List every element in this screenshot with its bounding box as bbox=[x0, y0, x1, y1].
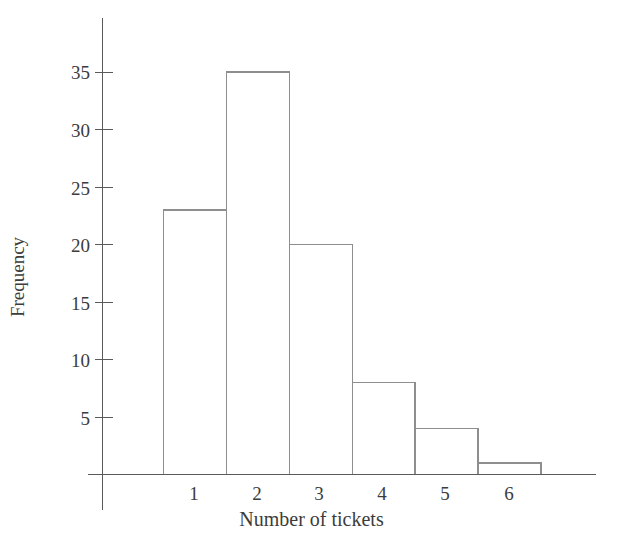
bar-category-3 bbox=[289, 245, 352, 475]
bar-category-1 bbox=[164, 210, 227, 475]
bar-category-2 bbox=[226, 72, 289, 475]
x-axis-tick-label-2: 2 bbox=[252, 484, 262, 503]
y-axis-title: Frequency bbox=[7, 237, 29, 317]
x-axis-tick-label-4: 4 bbox=[377, 484, 387, 503]
x-axis-title: Number of tickets bbox=[0, 508, 623, 531]
bar-category-5 bbox=[415, 429, 478, 475]
bar-category-6 bbox=[478, 463, 541, 475]
y-axis-tick-label-5: 5 bbox=[56, 409, 90, 428]
y-axis-tick-label-30: 30 bbox=[56, 121, 90, 140]
histogram-chart: 35 30 25 20 15 10 5 1 2 3 4 5 6 Frequenc… bbox=[0, 0, 623, 554]
y-axis-tick-label-25: 25 bbox=[56, 179, 90, 198]
y-axis-tick-label-35: 35 bbox=[56, 63, 90, 82]
plot-area bbox=[0, 0, 623, 554]
y-axis-tick-label-15: 15 bbox=[56, 294, 90, 313]
bars-group bbox=[164, 72, 541, 475]
y-axis-tick-label-10: 10 bbox=[56, 351, 90, 370]
x-axis-tick-label-3: 3 bbox=[314, 484, 324, 503]
y-axis-tick-label-20: 20 bbox=[56, 236, 90, 255]
x-axis-tick-label-5: 5 bbox=[440, 484, 450, 503]
bar-category-4 bbox=[352, 383, 415, 475]
y-tick-marks bbox=[95, 73, 113, 418]
x-axis-tick-label-6: 6 bbox=[504, 484, 514, 503]
x-axis-tick-label-1: 1 bbox=[189, 484, 199, 503]
